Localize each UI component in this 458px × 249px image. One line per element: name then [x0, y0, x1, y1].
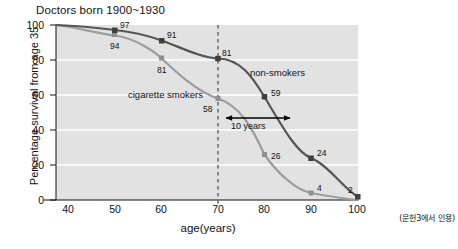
series-label-cigarette-smokers: cigarette smokers	[128, 89, 203, 100]
y-tick-20: 20	[18, 159, 44, 171]
chart-title: Doctors born 1900~1930	[36, 4, 165, 16]
x-tick-40: 40	[53, 203, 83, 215]
y-tick-100: 100	[18, 19, 44, 31]
marker-cs-70	[216, 96, 221, 101]
point-label-ns-70: 81	[222, 48, 231, 58]
x-tick-50: 50	[100, 203, 130, 215]
marker-ns-70	[215, 56, 221, 62]
point-label-ns-80: 59	[271, 88, 280, 98]
marker-cs-80	[262, 152, 267, 157]
annotation-label-10-years: 10 years	[231, 121, 266, 131]
point-label-ns-90: 24	[317, 148, 326, 158]
point-label-ns-60: 91	[167, 30, 176, 40]
point-label-cs-50: 94	[110, 41, 119, 51]
marker-ns-60	[159, 38, 165, 44]
marker-cs-60	[159, 56, 164, 61]
x-tick-70: 70	[203, 203, 233, 215]
point-label-cs-60: 81	[157, 65, 166, 75]
source-credit: (문헌3에서 인용)	[399, 212, 455, 223]
point-label-cs-90: 4	[317, 183, 322, 193]
figure-chart-doctors-survival: Doctors born 1900~1930 Percentage surviv…	[0, 0, 458, 249]
marker-ns-80	[262, 94, 268, 100]
marker-ns-50	[112, 28, 118, 34]
x-tick-80: 80	[249, 203, 279, 215]
x-tick-60: 60	[146, 203, 176, 215]
marker-ns-90	[308, 156, 314, 162]
x-tick-100: 100	[342, 203, 372, 215]
point-label-cs-70: 58	[203, 104, 212, 114]
x-tick-90: 90	[296, 203, 326, 215]
point-label-ns-100: 2	[348, 185, 353, 195]
point-label-cs-80: 26	[271, 151, 280, 161]
point-label-ns-50: 97	[120, 20, 129, 30]
y-tick-80: 80	[18, 54, 44, 66]
y-axis-title: Percentage survival from age 35	[28, 11, 40, 201]
y-tick-60: 60	[18, 89, 44, 101]
x-axis-title: age(years)	[118, 222, 298, 234]
y-tick-40: 40	[18, 124, 44, 136]
marker-ns-100	[355, 194, 361, 200]
marker-cs-90	[309, 191, 314, 196]
y-tick-marks	[50, 25, 56, 200]
y-tick-0: 0	[18, 194, 44, 206]
series-label-non-smokers: non-smokers	[250, 67, 305, 78]
